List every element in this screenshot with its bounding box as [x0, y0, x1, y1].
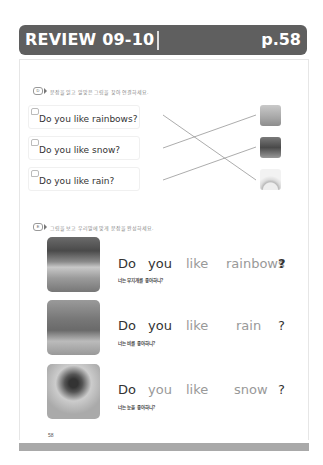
word: you [148, 382, 172, 397]
word: like [186, 382, 208, 397]
word: rain [236, 318, 261, 333]
word: Do [118, 382, 136, 397]
question-mark: ? [278, 318, 285, 333]
word: like [186, 318, 208, 333]
word: snow [234, 382, 268, 397]
question-mark: ? [278, 382, 285, 397]
question-mark: ? [278, 256, 286, 271]
korean-translation: 너는 무지개를 좋아하니? [118, 277, 163, 283]
snow-photo [47, 364, 100, 419]
section-e-instruction: E 그림을 보고 우리말에 맞게 문장을 완성하세요. [33, 223, 153, 231]
word: you [148, 318, 172, 333]
rain-photo [47, 300, 100, 355]
sentence-row: Do you like snow ? [118, 382, 288, 402]
korean-translation: 너는 눈을 좋아하니? [118, 404, 155, 410]
word: rainbows [226, 256, 285, 271]
instruction-text: 그림을 보고 우리말에 맞게 문장을 완성하세요. [50, 224, 153, 231]
word: Do [118, 256, 136, 271]
page-number: 58 [48, 432, 54, 438]
rainbow-photo [47, 237, 100, 292]
footer-bar [19, 443, 309, 451]
sentence-row: Do you like rainbows ? [118, 256, 288, 276]
word: Do [118, 318, 136, 333]
word: you [148, 256, 172, 271]
section-e-badge: E [33, 223, 43, 231]
sentence-row: Do you like rain ? [118, 318, 288, 338]
korean-translation: 너는 비를 좋아하니? [118, 340, 155, 346]
arrow-icon [44, 224, 47, 230]
word: like [186, 256, 208, 271]
